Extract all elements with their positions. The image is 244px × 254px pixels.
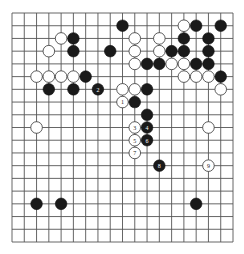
white-stone-shape bbox=[117, 84, 129, 96]
white-stone-shape bbox=[31, 71, 43, 83]
black-stone bbox=[166, 45, 178, 57]
white-stone-shape bbox=[31, 122, 43, 134]
black-stone bbox=[154, 58, 166, 70]
white-stone bbox=[117, 84, 129, 96]
move-number-label: 9 bbox=[207, 163, 210, 169]
black-stone bbox=[43, 84, 55, 96]
black-stone bbox=[178, 33, 190, 45]
black-stone-shape bbox=[215, 71, 227, 83]
black-stone-shape bbox=[43, 84, 55, 96]
black-stone bbox=[68, 84, 80, 96]
black-stone bbox=[190, 58, 202, 70]
white-stone bbox=[166, 58, 178, 70]
black-stone bbox=[178, 45, 190, 57]
move-number-label: 1 bbox=[121, 99, 124, 105]
white-stone-shape bbox=[43, 71, 55, 83]
black-stone bbox=[117, 20, 129, 32]
white-stone: 1 bbox=[117, 96, 129, 108]
black-stone-shape bbox=[190, 198, 202, 210]
black-stone-shape bbox=[215, 20, 227, 32]
white-stone bbox=[68, 71, 80, 83]
white-stone-shape bbox=[129, 33, 141, 45]
black-stone bbox=[141, 109, 153, 121]
black-stone bbox=[104, 45, 116, 57]
white-stone bbox=[31, 122, 43, 134]
black-stone bbox=[141, 58, 153, 70]
black-stone bbox=[129, 96, 141, 108]
white-stone: 9 bbox=[203, 160, 215, 172]
black-stone bbox=[215, 71, 227, 83]
black-stone-shape bbox=[68, 45, 80, 57]
black-stone bbox=[203, 33, 215, 45]
black-stone bbox=[203, 45, 215, 57]
go-board[interactable]: 213456789 bbox=[0, 0, 244, 254]
black-stone: 8 bbox=[154, 160, 166, 172]
black-stone-shape bbox=[190, 58, 202, 70]
black-stone-shape bbox=[203, 45, 215, 57]
black-stone-shape bbox=[31, 198, 43, 210]
black-stone bbox=[215, 20, 227, 32]
white-stone: 7 bbox=[129, 147, 141, 159]
white-stone-shape bbox=[68, 71, 80, 83]
black-stone-shape bbox=[178, 45, 190, 57]
move-number-label: 5 bbox=[133, 138, 136, 144]
black-stone-shape bbox=[141, 109, 153, 121]
white-stone bbox=[31, 71, 43, 83]
white-stone bbox=[178, 20, 190, 32]
white-stone-shape bbox=[129, 58, 141, 70]
black-stone bbox=[55, 198, 67, 210]
white-stone-shape bbox=[178, 71, 190, 83]
black-stone: 2 bbox=[92, 84, 104, 96]
white-stone bbox=[43, 45, 55, 57]
black-stone bbox=[190, 198, 202, 210]
black-stone bbox=[31, 198, 43, 210]
white-stone-shape bbox=[154, 45, 166, 57]
white-stone bbox=[55, 71, 67, 83]
white-stone-shape bbox=[129, 45, 141, 57]
white-stone-shape bbox=[129, 84, 141, 96]
white-stone-shape bbox=[215, 84, 227, 96]
white-stone-shape bbox=[190, 71, 202, 83]
black-stone-shape bbox=[117, 20, 129, 32]
white-stone-shape bbox=[43, 45, 55, 57]
black-stone bbox=[68, 33, 80, 45]
black-stone-shape bbox=[141, 84, 153, 96]
white-stone bbox=[129, 45, 141, 57]
white-stone bbox=[129, 84, 141, 96]
move-number-label: 3 bbox=[133, 125, 136, 131]
black-stone: 4 bbox=[141, 122, 153, 134]
white-stone bbox=[178, 71, 190, 83]
white-stone-shape bbox=[55, 71, 67, 83]
white-stone: 5 bbox=[129, 134, 141, 146]
white-stone: 3 bbox=[129, 122, 141, 134]
white-stone-shape bbox=[154, 33, 166, 45]
white-stone bbox=[178, 58, 190, 70]
black-stone bbox=[68, 45, 80, 57]
white-stone bbox=[43, 71, 55, 83]
white-stone bbox=[55, 33, 67, 45]
black-stone-shape bbox=[154, 58, 166, 70]
black-stone-shape bbox=[141, 58, 153, 70]
white-stone bbox=[154, 33, 166, 45]
black-stone-shape bbox=[68, 84, 80, 96]
black-stone-shape bbox=[190, 20, 202, 32]
black-stone-shape bbox=[166, 45, 178, 57]
white-stone-shape bbox=[178, 58, 190, 70]
white-stone-shape bbox=[55, 33, 67, 45]
white-stone bbox=[203, 71, 215, 83]
move-number-label: 8 bbox=[158, 163, 161, 169]
black-stone-shape bbox=[203, 58, 215, 70]
move-number-label: 7 bbox=[133, 150, 136, 156]
move-number-label: 6 bbox=[146, 138, 149, 144]
black-stone-shape bbox=[203, 33, 215, 45]
white-stone-shape bbox=[166, 58, 178, 70]
move-number-label: 4 bbox=[146, 125, 149, 131]
black-stone-shape bbox=[129, 96, 141, 108]
move-number-label: 2 bbox=[96, 87, 99, 93]
black-stone-shape bbox=[104, 45, 116, 57]
black-stone: 6 bbox=[141, 134, 153, 146]
black-stone bbox=[141, 84, 153, 96]
white-stone bbox=[203, 122, 215, 134]
white-stone-shape bbox=[178, 20, 190, 32]
black-stone-shape bbox=[68, 33, 80, 45]
